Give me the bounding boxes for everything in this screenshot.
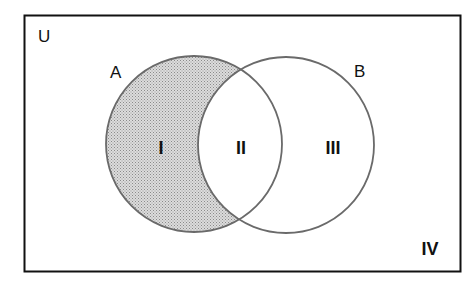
- set-A-label: A: [110, 63, 122, 82]
- universe-label: U: [38, 27, 50, 46]
- set-B-label: B: [354, 62, 365, 81]
- region-III-label: III: [325, 138, 340, 158]
- region-II-label: II: [236, 138, 246, 158]
- venn-diagram: U A B I II III IV: [0, 0, 473, 283]
- region-IV-label: IV: [421, 239, 438, 259]
- region-I-label: I: [158, 138, 163, 158]
